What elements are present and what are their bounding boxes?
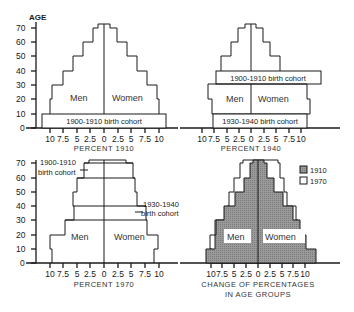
svg-text:50: 50 xyxy=(16,187,26,197)
svg-text:0: 0 xyxy=(256,269,261,279)
cohort-label-1900: 1900-1910 birth cohort xyxy=(230,74,306,83)
cohort-label-1930-text: birth cohort xyxy=(141,209,179,218)
x-axis-title-line1: CHANGE OF PERCENTAGES xyxy=(201,280,314,289)
svg-text:30: 30 xyxy=(16,80,26,90)
cohort-label-1930-year: 1930-1940 xyxy=(143,200,179,209)
svg-text:20: 20 xyxy=(16,230,26,240)
svg-text:20: 20 xyxy=(16,94,26,104)
svg-text:0: 0 xyxy=(102,134,107,144)
svg-text:2.5: 2.5 xyxy=(264,269,276,279)
women-label: Women xyxy=(258,94,289,104)
svg-text:10: 10 xyxy=(154,269,164,279)
x-axis-title-line2: IN AGE GROUPS xyxy=(225,290,291,299)
svg-text:7.5: 7.5 xyxy=(208,134,220,144)
svg-text:10: 10 xyxy=(154,134,164,144)
svg-text:7.5: 7.5 xyxy=(283,134,295,144)
x-axis-title: PERCENT 1940 xyxy=(221,144,281,153)
svg-text:2.5: 2.5 xyxy=(258,134,270,144)
svg-text:2.5: 2.5 xyxy=(84,269,96,279)
legend: 1910 1970 xyxy=(300,166,327,186)
svg-text:10: 10 xyxy=(45,134,55,144)
x-ticks: 10 7.5 5 2.5 0 2.5 5 7.5 10 xyxy=(197,128,306,144)
chart-1970: 0 10 20 30 40 50 60 70 1900-1910 birth c… xyxy=(16,158,179,289)
svg-text:7.5: 7.5 xyxy=(287,269,299,279)
svg-text:5: 5 xyxy=(232,269,237,279)
svg-text:0: 0 xyxy=(20,123,25,133)
svg-text:5: 5 xyxy=(274,134,279,144)
svg-text:50: 50 xyxy=(16,51,26,61)
svg-text:7.5: 7.5 xyxy=(139,269,151,279)
svg-text:2.5: 2.5 xyxy=(112,269,124,279)
x-ticks: 10 7.5 5 2.5 0 2.5 5 7.5 10 xyxy=(206,263,310,279)
x-axis-title: PERCENT 1910 xyxy=(74,144,134,153)
svg-text:10: 10 xyxy=(300,269,310,279)
cohort-label-1900-year: 1900-1910 xyxy=(40,158,76,167)
men-label: Men xyxy=(226,94,244,104)
svg-text:30: 30 xyxy=(16,215,26,225)
svg-text:5: 5 xyxy=(129,269,134,279)
y-ticks: 0 10 20 30 40 50 60 70 xyxy=(16,158,36,268)
y-axis-title: AGE xyxy=(29,13,47,22)
svg-text:60: 60 xyxy=(16,173,26,183)
y-ticks: 0 10 20 30 40 50 60 70 xyxy=(16,23,36,133)
legend-swatch-1910 xyxy=(300,166,307,173)
legend-swatch-1970 xyxy=(300,177,307,184)
svg-text:2.5: 2.5 xyxy=(233,134,245,144)
men-label: Men xyxy=(70,93,88,103)
svg-text:7.5: 7.5 xyxy=(57,269,69,279)
svg-text:2.5: 2.5 xyxy=(240,269,252,279)
svg-text:10: 10 xyxy=(45,269,55,279)
svg-text:10: 10 xyxy=(16,109,26,119)
series-1910 xyxy=(206,160,316,263)
women-label: Women xyxy=(265,232,296,242)
svg-text:10: 10 xyxy=(296,134,306,144)
cohort-label: 1900-1910 birth cohort xyxy=(66,117,142,126)
svg-text:7.5: 7.5 xyxy=(216,269,228,279)
svg-text:70: 70 xyxy=(16,23,26,33)
x-ticks: 10 7.5 5 2.5 0 2.5 5 7.5 10 xyxy=(45,263,164,279)
svg-text:5: 5 xyxy=(75,269,80,279)
x-ticks: 10 7.5 5 2.5 0 2.5 5 7.5 10 xyxy=(45,128,164,144)
svg-text:0: 0 xyxy=(102,269,107,279)
svg-text:0: 0 xyxy=(20,258,25,268)
svg-text:10: 10 xyxy=(16,244,26,254)
svg-text:5: 5 xyxy=(75,134,80,144)
men-label: Men xyxy=(71,232,89,242)
svg-text:2.5: 2.5 xyxy=(84,134,96,144)
svg-text:0: 0 xyxy=(249,134,254,144)
svg-text:7.5: 7.5 xyxy=(57,134,69,144)
svg-text:5: 5 xyxy=(129,134,134,144)
legend-label-1970: 1970 xyxy=(310,177,327,186)
svg-text:60: 60 xyxy=(16,37,26,47)
svg-text:7.5: 7.5 xyxy=(139,134,151,144)
chart-1940: 1900-1910 birth cohort Men Women 1930-19… xyxy=(180,24,340,153)
cohort-label-1930: 1930-1940 birth cohort xyxy=(222,117,298,126)
legend-label-1910: 1910 xyxy=(310,166,327,175)
svg-text:5: 5 xyxy=(280,269,285,279)
svg-text:2.5: 2.5 xyxy=(112,134,124,144)
svg-text:10: 10 xyxy=(197,134,207,144)
x-axis-title: PERCENT 1970 xyxy=(74,280,134,289)
women-label: Women xyxy=(112,93,143,103)
women-label: Women xyxy=(114,232,145,242)
svg-text:70: 70 xyxy=(16,158,26,168)
svg-text:5: 5 xyxy=(225,134,230,144)
figure: AGE 0 10 20 30 40 50 60 70 1900-1910 bir… xyxy=(0,0,354,312)
svg-text:10: 10 xyxy=(206,269,216,279)
svg-text:40: 40 xyxy=(16,66,26,76)
men-label: Men xyxy=(227,232,245,242)
chart-1910: AGE 0 10 20 30 40 50 60 70 1900-1910 bir… xyxy=(16,13,178,153)
svg-text:40: 40 xyxy=(16,201,26,211)
chart-change: Men Women 1910 1970 10 7.5 5 2.5 0 2.5 5… xyxy=(180,160,340,299)
cohort-label-1900-text: birth cohort xyxy=(38,168,76,177)
